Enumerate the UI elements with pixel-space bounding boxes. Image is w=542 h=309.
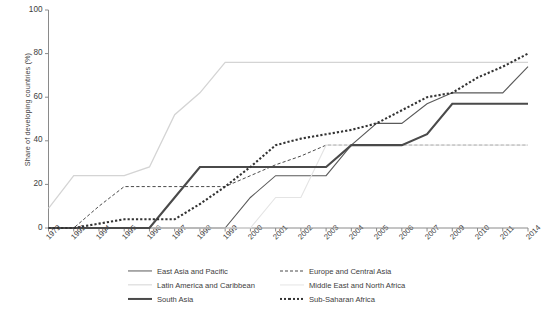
axis-lines	[45, 10, 528, 232]
legend-item[interactable]: Latin America and Caribbean	[128, 281, 280, 290]
series-line	[49, 62, 529, 208]
legend-swatch-icon	[128, 268, 152, 274]
legend-swatch-icon	[128, 296, 152, 302]
chart-legend: East Asia and PacificEurope and Central …	[128, 264, 428, 306]
legend-item-label: Europe and Central Asia	[309, 267, 391, 276]
legend-swatch-icon	[128, 282, 152, 288]
legend-item[interactable]: East Asia and Pacific	[128, 267, 280, 276]
series-line	[49, 145, 529, 228]
series-line	[49, 104, 529, 228]
series-line	[49, 54, 529, 228]
legend-swatch-icon	[280, 268, 304, 274]
legend-item-label: Sub-Saharan Africa	[309, 295, 375, 304]
legend-item[interactable]: Europe and Central Asia	[280, 267, 432, 276]
legend-item-label: South Asia	[157, 295, 193, 304]
data-series-group	[49, 54, 529, 228]
legend-item[interactable]: Sub-Saharan Africa	[280, 295, 432, 304]
legend-item[interactable]: Middle East and North Africa	[280, 281, 432, 290]
legend-item-label: Middle East and North Africa	[309, 281, 405, 290]
legend-swatch-icon	[280, 282, 304, 288]
legend-swatch-icon	[280, 296, 304, 302]
legend-item-label: East Asia and Pacific	[157, 267, 228, 276]
series-line	[49, 145, 529, 228]
legend-item[interactable]: South Asia	[128, 295, 280, 304]
legend-item-label: Latin America and Caribbean	[157, 281, 255, 290]
